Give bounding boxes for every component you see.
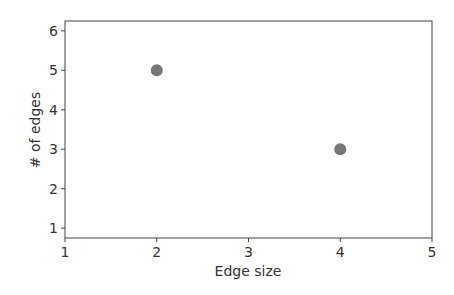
y-tick-label: 3 xyxy=(49,141,58,157)
x-tick-label: 1 xyxy=(61,244,70,260)
data-points xyxy=(151,64,347,155)
scatter-chart: 12345 123456 Edge size # of edges xyxy=(0,0,454,295)
x-tick-label: 5 xyxy=(428,244,437,260)
x-axis-ticks: 12345 xyxy=(61,238,437,260)
y-tick-label: 2 xyxy=(49,181,58,197)
y-axis-ticks: 123456 xyxy=(49,23,65,236)
x-axis-label: Edge size xyxy=(215,263,282,279)
data-point xyxy=(334,143,346,155)
x-tick-label: 2 xyxy=(152,244,161,260)
y-tick-label: 1 xyxy=(49,220,58,236)
data-point xyxy=(151,64,163,76)
x-tick-label: 3 xyxy=(244,244,253,260)
plot-frame xyxy=(65,21,432,238)
y-tick-label: 4 xyxy=(49,102,58,118)
y-axis-label: # of edges xyxy=(27,92,43,168)
x-tick-label: 4 xyxy=(336,244,345,260)
y-tick-label: 5 xyxy=(49,62,58,78)
y-tick-label: 6 xyxy=(49,23,58,39)
